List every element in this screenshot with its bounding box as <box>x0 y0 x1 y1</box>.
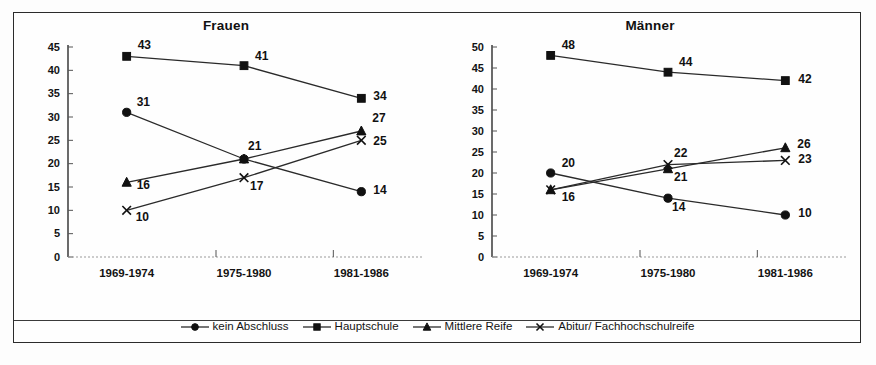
panels-container: Frauen 0510152025303540451969-19741975-1… <box>14 13 862 309</box>
legend-item-label: kein Abschluss <box>213 321 289 333</box>
circle-marker <box>664 194 672 202</box>
x-axis-category-label: 1975-1980 <box>641 267 696 279</box>
legend-item-label: Abitur/ Fachhochschulreife <box>558 321 694 333</box>
y-axis-tick-label: 15 <box>48 181 60 193</box>
x-axis-category-label: 1969-1974 <box>523 267 579 279</box>
x-marker <box>240 173 249 182</box>
chart-panel-frauen: Frauen 0510152025303540451969-19741975-1… <box>14 13 438 309</box>
x-marker <box>357 136 366 145</box>
y-axis-tick-label: 35 <box>48 87 60 99</box>
y-axis-tick-label: 5 <box>478 230 484 242</box>
figure-root: Frauen 0510152025303540451969-19741975-1… <box>0 0 876 365</box>
data-point-label: 31 <box>137 95 151 109</box>
data-point-label: 27 <box>372 111 386 125</box>
chart-title-frauen: Frauen <box>14 18 438 33</box>
legend-marker-square-marker <box>302 320 332 334</box>
y-axis-tick-label: 10 <box>472 209 484 221</box>
x-axis-category-label: 1981-1986 <box>758 267 813 279</box>
y-axis-tick-label: 0 <box>478 251 484 263</box>
legend-item-label: Hauptschule <box>335 321 399 333</box>
legend-marker-circle-marker <box>180 320 210 334</box>
y-axis-tick-label: 40 <box>48 64 60 76</box>
data-point-label: 14 <box>373 183 387 197</box>
x-marker <box>122 206 131 215</box>
triangle-marker <box>357 126 366 135</box>
data-point-label: 20 <box>562 156 576 170</box>
circle-marker <box>547 169 555 177</box>
data-point-label: 10 <box>136 210 150 224</box>
data-point-label: 16 <box>562 190 576 204</box>
y-axis-tick-label: 30 <box>472 125 484 137</box>
data-point-label: 48 <box>562 38 576 52</box>
x-axis-category-label: 1975-1980 <box>217 267 272 279</box>
data-point-label: 14 <box>672 200 686 214</box>
square-marker <box>547 52 555 60</box>
square-marker <box>781 77 789 85</box>
y-axis-tick-label: 5 <box>54 227 60 239</box>
data-point-label: 16 <box>137 178 151 192</box>
data-point-label: 17 <box>250 179 264 193</box>
chart-legend: kein AbschlussHauptschuleMittlere ReifeA… <box>14 312 860 342</box>
y-axis-tick-label: 20 <box>48 157 60 169</box>
circle-marker <box>191 324 198 331</box>
data-point-label: 44 <box>679 55 693 69</box>
y-axis-tick-label: 0 <box>54 251 60 263</box>
data-point-label: 23 <box>798 152 812 166</box>
y-axis-tick-label: 10 <box>48 204 60 216</box>
legend-item-label: Mittlere Reife <box>445 321 513 333</box>
data-point-label: 43 <box>138 38 152 52</box>
y-axis-tick-label: 40 <box>472 83 484 95</box>
data-point-label: 25 <box>373 134 387 148</box>
data-point-label: 21 <box>248 139 262 153</box>
data-point-label: 22 <box>674 146 688 160</box>
data-point-label: 42 <box>798 72 812 86</box>
y-axis-tick-label: 45 <box>472 62 484 74</box>
line-chart-frauen: 0510152025303540451969-19741975-19801981… <box>14 37 438 309</box>
circle-marker <box>123 108 131 116</box>
circle-marker <box>357 188 365 196</box>
y-axis-tick-label: 20 <box>472 167 484 179</box>
legend-marker-x-marker <box>525 320 555 334</box>
triangle-marker <box>781 143 790 152</box>
y-axis-tick-label: 45 <box>48 41 60 53</box>
square-marker <box>664 68 672 76</box>
y-axis-tick-label: 25 <box>472 146 484 158</box>
y-axis-tick-label: 50 <box>472 41 484 53</box>
y-axis-tick-label: 30 <box>48 111 60 123</box>
x-axis-category-label: 1969-1974 <box>99 267 155 279</box>
data-point-label: 21 <box>674 170 688 184</box>
y-axis-tick-label: 15 <box>472 188 484 200</box>
data-point-label: 41 <box>255 49 269 63</box>
chart-title-maenner: Männer <box>438 18 862 33</box>
y-axis-tick-label: 35 <box>472 104 484 116</box>
square-marker <box>357 94 365 102</box>
circle-marker <box>781 211 789 219</box>
chart-panel-maenner: Männer 051015202530354045501969-19741975… <box>438 13 862 309</box>
figure-frame: Frauen 0510152025303540451969-19741975-1… <box>13 12 861 343</box>
data-point-label: 26 <box>797 137 811 151</box>
data-point-label: 10 <box>798 206 812 220</box>
y-axis-tick-label: 25 <box>48 134 60 146</box>
legend-item[interactable]: kein Abschluss <box>180 320 289 334</box>
square-marker <box>123 52 131 60</box>
legend-item[interactable]: Abitur/ Fachhochschulreife <box>525 320 694 334</box>
square-marker <box>313 324 319 330</box>
legend-item[interactable]: Hauptschule <box>302 320 399 334</box>
line-chart-maenner: 051015202530354045501969-19741975-198019… <box>438 37 862 309</box>
x-axis-category-label: 1981-1986 <box>334 267 389 279</box>
data-point-label: 34 <box>373 89 387 103</box>
legend-item[interactable]: Mittlere Reife <box>412 320 513 334</box>
square-marker <box>240 62 248 70</box>
legend-marker-triangle-marker <box>412 320 442 334</box>
